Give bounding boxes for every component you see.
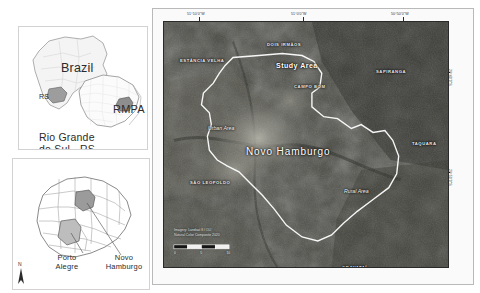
- brazil-label: Brazil: [61, 61, 93, 75]
- rs-tag-label: RS: [39, 93, 49, 100]
- longitude-tick-label-2: 51°0'0"W: [291, 12, 307, 16]
- study-area-figure: Brazil RS RMPA Rio Grande do Sul - RS: [0, 0, 480, 293]
- novo-hamburgo-callout: Novo Hamburgo: [102, 254, 146, 271]
- satellite-map-panel: 51°10'0"W 51°0'0"W 50°50'0"W 29°40'0"S 2…: [152, 8, 474, 285]
- imagery-credit: Imagery: Landsat 8 / OLI Natural Color C…: [174, 228, 220, 237]
- scale-bar-tick-labels: 0 5 10: [174, 251, 230, 255]
- left-inset-panel: Brazil RS RMPA Rio Grande do Sul - RS: [6, 8, 148, 285]
- porto-alegre-line-2: Alegre: [50, 263, 84, 272]
- scale-bar: 0 5 10: [174, 251, 230, 255]
- rmpa-label: RMPA: [113, 103, 145, 115]
- scale-bar-graphic: [174, 245, 229, 249]
- rio-grande-do-sul-caption: Rio Grande do Sul - RS: [39, 131, 95, 150]
- map-image-frame: DOIS IRMÃOS ESTÂNCIA VELHA SAPIRANGA CAM…: [163, 21, 449, 268]
- north-arrow-icon: N: [15, 260, 27, 286]
- brazil-location-inset: Brazil RS RMPA Rio Grande do Sul - RS: [18, 26, 148, 150]
- novo-hamburgo-line-2: Hamburgo: [102, 263, 146, 272]
- longitude-tick-label-3: 50°50'0"W: [391, 12, 409, 16]
- rgs-caption-line-1: Rio Grande: [39, 131, 95, 143]
- scale-tick-2: 10: [226, 251, 230, 255]
- longitude-tick-label-1: 51°10'0"W: [187, 12, 205, 16]
- rgs-caption-line-2: do Sul - RS: [39, 143, 95, 150]
- scale-tick-0: 0: [174, 251, 176, 255]
- svg-text:N: N: [18, 261, 22, 267]
- porto-alegre-callout: Porto Alegre: [50, 254, 84, 271]
- scale-tick-1: 5: [200, 251, 202, 255]
